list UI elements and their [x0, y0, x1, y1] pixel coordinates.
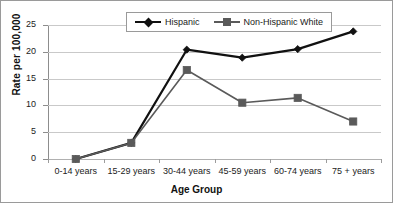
gridline-15	[48, 79, 381, 80]
x-tick-label-4: 60-74 years	[270, 166, 326, 176]
data-point-2	[183, 66, 190, 73]
series-hispanic	[72, 28, 357, 163]
gridline-10	[48, 105, 381, 106]
y-tick-label-20: 20	[26, 47, 36, 56]
x-axis-title: Age Group	[1, 184, 392, 195]
x-tick-label-1: 15-29 years	[104, 166, 160, 176]
legend-label: Hispanic	[165, 17, 200, 27]
x-tick-mark-5	[326, 159, 327, 163]
x-tick-mark-4	[270, 159, 271, 163]
data-point-4	[294, 94, 301, 101]
x-tick-label-3: 45-59 years	[215, 166, 271, 176]
data-point-1	[128, 139, 135, 146]
series-non-hispanic-white	[72, 66, 357, 162]
y-tick-label-5: 5	[31, 127, 36, 136]
y-tick-label-0: 0	[31, 154, 36, 163]
square-marker	[223, 18, 231, 26]
x-tick-mark-6	[381, 159, 382, 163]
y-tick-mark-20	[43, 52, 48, 53]
x-tick-label-0: 0-14 years	[48, 166, 104, 176]
y-tick-mark-10	[43, 105, 48, 106]
x-tick-mark-0	[48, 159, 49, 163]
y-tick-mark-25	[43, 25, 48, 26]
chart-legend: HispanicNon-Hispanic White	[126, 12, 332, 32]
y-tick-label-25: 25	[26, 20, 36, 29]
legend-entry-hispanic[interactable]: Hispanic	[135, 17, 200, 27]
data-point-5	[350, 118, 357, 125]
gridline-5	[48, 132, 381, 133]
y-tick-label-10: 10	[26, 100, 36, 109]
y-tick-mark-15	[43, 79, 48, 80]
y-tick-mark-5	[43, 132, 48, 133]
x-tick-label-5: 75 + years	[326, 166, 382, 176]
gridline-20	[48, 52, 381, 53]
y-axis-title: Rate per 100,000	[11, 0, 22, 115]
y-tick-label-15: 15	[26, 74, 36, 83]
legend-swatch	[135, 17, 161, 27]
x-tick-mark-1	[104, 159, 105, 163]
chart-figure: Rate per 100,000 0510152025 0-14 years15…	[0, 0, 393, 203]
x-tick-mark-3	[215, 159, 216, 163]
data-point-3	[239, 54, 246, 61]
y-axis-line	[48, 25, 49, 160]
x-tick-label-2: 30-44 years	[159, 166, 215, 176]
legend-entry-non-hispanic-white[interactable]: Non-Hispanic White	[214, 17, 324, 27]
diamond-marker	[143, 17, 153, 27]
series-line	[76, 70, 354, 159]
series-line	[76, 31, 354, 159]
x-tick-mark-2	[159, 159, 160, 163]
legend-label: Non-Hispanic White	[244, 17, 324, 27]
data-point-5	[350, 28, 357, 35]
data-point-1	[128, 139, 135, 146]
legend-swatch	[214, 17, 240, 27]
